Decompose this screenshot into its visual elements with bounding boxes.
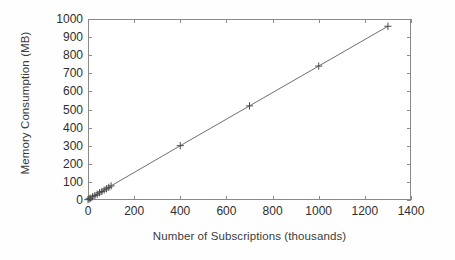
- x-tick-label: 1400: [398, 204, 425, 218]
- data-point-marker: [246, 102, 253, 109]
- data-point-marker: [315, 62, 322, 69]
- data-point-marker: [384, 23, 391, 30]
- series-line: [88, 26, 388, 199]
- x-axis-title: Number of Subscriptions (thousands): [88, 230, 411, 242]
- x-tick: [411, 196, 412, 200]
- y-tick-right: [407, 200, 411, 201]
- plot-area: 01002003004005006007008009001000 0200400…: [88, 19, 411, 200]
- chart-figure: Memory Consumption (MB) 0100200300400500…: [0, 0, 455, 260]
- y-tick-label: 1000: [56, 12, 83, 26]
- x-tick-label: 0: [85, 204, 92, 218]
- y-tick-label: 400: [63, 121, 83, 135]
- y-tick-label: 200: [63, 157, 83, 171]
- x-tick-label: 400: [170, 204, 190, 218]
- y-tick-label: 800: [63, 48, 83, 62]
- x-tick-top: [411, 19, 412, 23]
- x-tick-label: 800: [263, 204, 283, 218]
- y-tick-label: 0: [76, 193, 83, 207]
- y-axis-title: Memory Consumption (MB): [14, 3, 36, 203]
- y-tick-label: 300: [63, 139, 83, 153]
- y-tick-label: 600: [63, 84, 83, 98]
- data-series-layer: [88, 19, 411, 200]
- x-tick-label: 200: [124, 204, 144, 218]
- x-tick-label: 1200: [351, 204, 378, 218]
- x-tick-label: 1000: [305, 204, 332, 218]
- y-tick-label: 900: [63, 30, 83, 44]
- data-point-marker: [177, 142, 184, 149]
- x-tick-label: 600: [216, 204, 236, 218]
- y-tick-label: 700: [63, 66, 83, 80]
- y-tick-label: 100: [63, 175, 83, 189]
- y-tick-label: 500: [63, 103, 83, 117]
